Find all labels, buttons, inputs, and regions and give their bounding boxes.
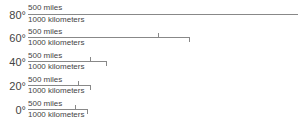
km-tick <box>90 85 91 90</box>
miles-label: 500 miles <box>28 27 62 36</box>
miles-label: 500 miles <box>28 51 62 60</box>
km-tick <box>87 109 88 114</box>
scale-row-0: 0° 500 miles 1000 kilometers <box>0 98 298 122</box>
miles-tick <box>78 81 79 85</box>
kilometers-label: 1000 kilometers <box>28 110 84 119</box>
kilometers-label: 1000 kilometers <box>28 15 84 24</box>
scale-row-60: 60° 500 miles 1000 kilometers <box>0 26 298 50</box>
km-tick <box>106 61 107 66</box>
kilometers-label: 1000 kilometers <box>28 86 84 95</box>
km-tick <box>189 37 190 42</box>
kilometers-label: 1000 kilometers <box>28 62 84 71</box>
latitude-label: 40° <box>4 56 26 68</box>
latitude-label: 80° <box>4 9 26 21</box>
miles-label: 500 miles <box>28 99 62 108</box>
miles-tick <box>90 57 91 61</box>
latitude-label: 60° <box>4 32 26 44</box>
miles-label: 500 miles <box>28 3 62 12</box>
miles-tick <box>75 105 76 109</box>
kilometers-label: 1000 kilometers <box>28 38 84 47</box>
scale-row-20: 20° 500 miles 1000 kilometers <box>0 74 298 98</box>
miles-label: 500 miles <box>28 75 62 84</box>
miles-tick <box>158 33 159 37</box>
scale-row-80: 80° 500 miles 1000 kilometers <box>0 2 298 26</box>
latitude-label: 0° <box>4 104 26 116</box>
scale-row-40: 40° 500 miles 1000 kilometers <box>0 50 298 74</box>
latitude-label: 20° <box>4 80 26 92</box>
